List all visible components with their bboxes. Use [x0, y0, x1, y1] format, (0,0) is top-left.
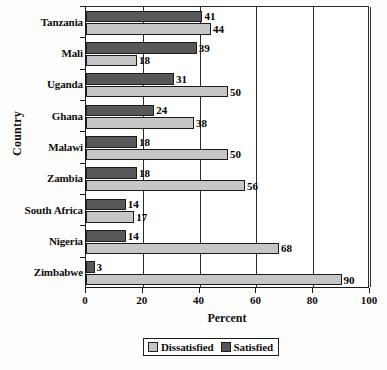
bar-value-label: 18	[137, 136, 150, 148]
plot-area: 41443918315024381850185614171468390	[85, 6, 369, 288]
bar-dissatisfied	[86, 55, 137, 67]
category-label: Zambia	[14, 172, 83, 184]
legend-label: Dissatisfied	[161, 341, 214, 353]
bar-satisfied	[86, 167, 137, 179]
category-label: Tanzania	[14, 16, 83, 28]
bar-value-label: 31	[174, 73, 187, 85]
bar-value-label: 50	[228, 86, 241, 98]
bar-value-label: 50	[228, 148, 241, 160]
bar-value-label: 18	[137, 54, 150, 66]
y-axis-tick	[80, 100, 85, 101]
x-axis-tick-label: 100	[361, 294, 378, 306]
bar-value-label: 24	[154, 104, 167, 116]
x-axis-tick	[369, 288, 370, 293]
x-axis-tick	[199, 288, 200, 293]
x-axis-tick	[85, 288, 86, 293]
y-axis-tick	[80, 225, 85, 226]
x-axis-tick-label: 80	[307, 294, 318, 306]
legend-item[interactable]: Satisfied	[221, 341, 273, 353]
y-axis-tick	[80, 69, 85, 70]
legend-item[interactable]: Dissatisfied	[148, 341, 214, 353]
legend-swatch-icon	[148, 342, 158, 352]
bar-value-label: 90	[342, 274, 355, 286]
bar-satisfied	[86, 199, 126, 211]
category-label: Mali	[14, 47, 83, 59]
bar-satisfied	[86, 11, 202, 23]
x-axis-title: Percent	[85, 311, 369, 326]
y-axis-tick	[80, 194, 85, 195]
x-axis-tick-label: 20	[136, 294, 147, 306]
bar-dissatisfied	[86, 211, 134, 223]
x-axis-tick-label: 40	[193, 294, 204, 306]
category-label: Ghana	[14, 110, 83, 122]
bar-satisfied	[86, 73, 174, 85]
bar-dissatisfied	[86, 86, 228, 98]
bar-value-label: 38	[194, 117, 207, 129]
bar-value-label: 39	[197, 42, 210, 54]
bar-satisfied	[86, 42, 197, 54]
gridline	[370, 7, 371, 287]
bar-chart: Country TanzaniaMaliUgandaGhanaMalawiZam…	[0, 0, 387, 370]
bar-dissatisfied	[86, 180, 245, 192]
legend-swatch-icon	[221, 342, 231, 352]
bar-dissatisfied	[86, 149, 228, 161]
bar-satisfied	[86, 230, 126, 242]
bar-value-label: 14	[126, 198, 139, 210]
bar-dissatisfied	[86, 117, 194, 129]
category-label: South Africa	[14, 204, 83, 216]
bar-dissatisfied	[86, 243, 279, 255]
x-axis-tick	[312, 288, 313, 293]
x-axis-tick	[255, 288, 256, 293]
bar-value-label: 56	[245, 180, 258, 192]
bar-value-label: 18	[137, 167, 150, 179]
x-axis-tick-label: 0	[82, 294, 88, 306]
bar-value-label: 68	[279, 242, 292, 254]
legend-label: Satisfied	[234, 341, 273, 353]
bar-value-label: 14	[126, 230, 139, 242]
y-axis-tick	[80, 37, 85, 38]
y-axis-tick	[80, 163, 85, 164]
chart-legend: DissatisfiedSatisfied	[143, 338, 279, 356]
bar-dissatisfied	[86, 23, 211, 35]
y-axis-tick	[80, 131, 85, 132]
x-axis-tick-label: 60	[250, 294, 261, 306]
y-axis-tick	[80, 6, 85, 7]
bar-satisfied	[86, 261, 95, 273]
bar-dissatisfied	[86, 274, 342, 286]
category-label: Nigeria	[14, 235, 83, 247]
bar-value-label: 41	[202, 10, 215, 22]
category-label: Uganda	[14, 78, 83, 90]
bar-value-label: 17	[134, 211, 147, 223]
bar-value-label: 44	[211, 23, 224, 35]
y-axis-tick	[80, 257, 85, 258]
category-label: Zimbabwe	[14, 266, 83, 278]
category-label-column: TanzaniaMaliUgandaGhanaMalawiZambiaSouth…	[14, 6, 83, 288]
x-axis-tick	[142, 288, 143, 293]
category-label: Malawi	[14, 141, 83, 153]
bar-satisfied	[86, 136, 137, 148]
bar-satisfied	[86, 105, 154, 117]
gridline	[313, 7, 314, 287]
bar-value-label: 3	[95, 261, 103, 273]
